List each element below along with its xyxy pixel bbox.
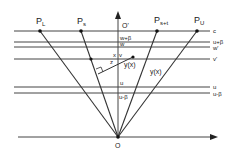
label-c: c [213,28,216,34]
label-x: x [113,52,116,58]
label-O: O [115,142,121,149]
label-Ps: Ps [77,16,86,27]
label-u-beta: u-β [119,94,128,100]
right-angle-marker [96,67,103,72]
point-O [116,135,120,139]
point-PU [195,29,199,33]
x-axis-arrow-icon [210,134,218,140]
label-yx-axis: y(x) [124,61,136,69]
label-w-prime: w' [212,45,218,51]
label-u-right: u [213,84,216,90]
label-O-prime: O' [122,22,129,29]
geometry-diagram: PL Ps Ps+t PU O' O w+β w x v z y(x) y(x)… [0,0,240,154]
point-Ps [79,29,83,33]
point-yx [131,55,134,58]
label-w: w [119,41,125,47]
point-Pst [155,29,159,33]
label-v: v [119,52,122,58]
label-PL: PL [36,16,46,27]
label-v-prime: v' [213,56,217,62]
label-Pst: Ps+t [154,15,169,26]
label-PU: PU [194,15,204,26]
point-PL [38,29,42,33]
label-z: z [110,59,113,65]
point-Ps-v [89,57,92,60]
label-yx-right: y(x) [150,68,162,76]
label-u-minus-beta: u-β [213,91,222,97]
label-u: u [120,80,123,86]
y-axis-arrow-icon [115,11,121,19]
